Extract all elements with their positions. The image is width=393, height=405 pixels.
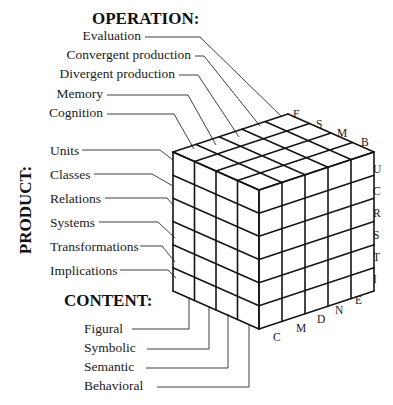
operation-label-memory: Memory <box>57 86 104 101</box>
structure-of-intellect-cube-diagram: OPERATION: PRODUCT: CONTENT: Evaluation … <box>0 0 393 405</box>
axis-letter-c: C <box>373 185 381 197</box>
axis-letter-s2: S <box>373 229 379 241</box>
axis-letter-e: E <box>355 294 362 306</box>
product-label-relations: Relations <box>50 191 101 206</box>
axis-letter-b: B <box>361 136 369 148</box>
axis-letter-t: T <box>373 251 380 263</box>
axis-letter-m2: M <box>296 322 306 334</box>
content-label-semantic: Semantic <box>84 359 134 374</box>
operation-label-evaluation: Evaluation <box>83 28 142 43</box>
axis-letter-s: S <box>316 118 322 130</box>
axis-letter-r: R <box>373 207 381 219</box>
operation-label-cognition: Cognition <box>49 105 103 120</box>
content-heading: CONTENT: <box>64 291 152 310</box>
product-leader-lines <box>82 150 176 278</box>
content-label-behavioral: Behavioral <box>84 378 143 393</box>
product-labels: Units Classes Relations Systems Transfor… <box>50 143 139 278</box>
content-axis-letters: C M D N E <box>273 294 362 343</box>
product-label-systems: Systems <box>50 215 95 230</box>
product-label-units: Units <box>50 143 79 158</box>
operation-label-divergent-production: Divergent production <box>59 66 175 81</box>
content-labels: Figural Symbolic Semantic Behavioral <box>84 321 143 393</box>
operation-labels: Evaluation Convergent production Diverge… <box>49 28 191 120</box>
operation-label-convergent-production: Convergent production <box>66 47 191 62</box>
axis-letter-n: N <box>335 304 344 316</box>
content-label-symbolic: Symbolic <box>84 340 136 355</box>
axis-letter-c2: C <box>273 331 281 343</box>
axis-letter-m: M <box>337 127 347 139</box>
operation-heading: OPERATION: <box>92 9 199 28</box>
product-label-transformations: Transformations <box>50 239 139 254</box>
axis-letter-f: F <box>293 108 299 120</box>
content-label-figural: Figural <box>84 321 123 336</box>
product-label-implications: Implications <box>50 263 118 278</box>
cube-grid <box>173 114 374 329</box>
product-label-classes: Classes <box>50 167 91 182</box>
axis-letter-u: U <box>373 163 382 175</box>
axis-letter-d: D <box>317 313 325 325</box>
product-heading: PRODUCT: <box>16 166 35 254</box>
content-leader-lines <box>132 297 249 387</box>
axis-letter-i: I <box>373 273 377 285</box>
